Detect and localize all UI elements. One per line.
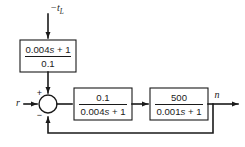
reference-input-group: r xyxy=(16,97,37,108)
forward-block-2: 500 0.001s + 1 xyxy=(150,88,208,120)
disturbance-block-denominator: 0.1 xyxy=(41,58,54,69)
forward-block-2-numerator: 500 xyxy=(171,92,187,103)
forward-block-1-denominator: 0.004s + 1 xyxy=(80,106,125,117)
forward-block-2-denominator: 0.001s + 1 xyxy=(156,106,201,117)
disturbance-block-numerator: 0.004s + 1 xyxy=(25,44,70,55)
reference-input-label: r xyxy=(16,97,20,108)
summing-junction: + − xyxy=(37,88,57,120)
forward-block-1: 0.1 0.004s + 1 xyxy=(74,88,132,120)
disturbance-input-group: −tL xyxy=(48,2,64,38)
summing-junction-minus-sign: − xyxy=(37,110,42,120)
disturbance-block: 0.004s + 1 0.1 xyxy=(20,40,76,72)
block-diagram-svg: −tL 0.004s + 1 0.1 r + − 0.1 xyxy=(0,0,245,147)
output-group: n xyxy=(208,89,238,104)
block-diagram-canvas: −tL 0.004s + 1 0.1 r + − 0.1 xyxy=(0,0,245,147)
disturbance-input-label: −tL xyxy=(50,2,64,15)
output-label: n xyxy=(215,89,220,100)
summing-junction-plus-sign: + xyxy=(37,88,42,98)
forward-block-1-numerator: 0.1 xyxy=(96,92,109,103)
